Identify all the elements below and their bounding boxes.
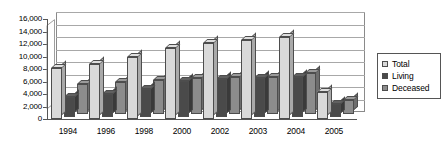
y-axis-line	[47, 19, 48, 119]
legend-swatch-deceased	[382, 85, 388, 91]
bar-front-face	[241, 40, 252, 119]
bar-total[interactable]	[317, 92, 328, 119]
bar-front-face	[317, 92, 328, 119]
bar-chart: 16,00014,00012,00010,0008,0006,0004,0002…	[0, 0, 444, 147]
bar-group	[241, 12, 279, 119]
bar-front-face	[203, 43, 214, 119]
bar-side-face	[252, 32, 256, 115]
y-axis-label: 10,000	[0, 53, 42, 61]
x-axis-label: 1994	[48, 126, 88, 136]
legend-swatch-living	[382, 73, 388, 79]
legend-item-living[interactable]: Living	[382, 70, 437, 82]
bar-group	[89, 12, 127, 119]
chart-legend: Total Living Deceased	[377, 53, 441, 99]
x-axis-label: 2000	[162, 126, 202, 136]
y-axis-label: 14,000	[0, 28, 42, 36]
y-axis-label: 16,000	[0, 15, 42, 23]
bar-front-face	[89, 64, 100, 119]
bar-group	[317, 12, 355, 119]
y-axis-label: 2,000	[0, 103, 42, 111]
y-axis-label: 0	[0, 115, 42, 123]
y-axis-label: 6,000	[0, 78, 42, 86]
bar-front-face	[279, 37, 290, 119]
x-axis-line	[47, 119, 357, 120]
legend-swatch-total	[382, 61, 388, 67]
y-axis-label: 4,000	[0, 90, 42, 98]
bar-group	[127, 12, 165, 119]
bar-total[interactable]	[51, 68, 62, 119]
bar-group	[51, 12, 89, 119]
bar-total[interactable]	[165, 48, 176, 119]
bar-front-face	[51, 68, 62, 119]
bar-side-face	[290, 30, 294, 115]
x-axis-label: 1998	[124, 126, 164, 136]
plot-area	[47, 12, 365, 119]
bar-total[interactable]	[127, 57, 138, 120]
bar-side-face	[138, 49, 142, 115]
bar-front-face	[127, 57, 138, 120]
bar-side-face	[214, 35, 218, 115]
bar-group	[165, 12, 203, 119]
y-axis-label: 12,000	[0, 40, 42, 48]
bar-total[interactable]	[89, 64, 100, 119]
bar-side-face	[100, 56, 104, 115]
x-axis-label: 2002	[200, 126, 240, 136]
legend-item-total[interactable]: Total	[382, 58, 437, 70]
bar-side-face	[176, 40, 180, 115]
legend-label-living: Living	[392, 71, 414, 81]
legend-item-deceased[interactable]: Deceased	[382, 82, 437, 94]
bar-total[interactable]	[279, 37, 290, 119]
bar-front-face	[165, 48, 176, 119]
x-axis-label: 1996	[86, 126, 126, 136]
y-axis-label: 8,000	[0, 65, 42, 73]
legend-label-total: Total	[392, 59, 409, 69]
bar-total[interactable]	[241, 40, 252, 119]
bar-side-face	[62, 60, 66, 115]
bar-group	[279, 12, 317, 119]
legend-label-deceased: Deceased	[392, 83, 429, 93]
bar-total[interactable]	[203, 43, 214, 119]
x-axis-label: 2005	[314, 126, 354, 136]
x-axis-label: 2004	[276, 126, 316, 136]
bar-group	[203, 12, 241, 119]
x-axis-label: 2003	[238, 126, 278, 136]
